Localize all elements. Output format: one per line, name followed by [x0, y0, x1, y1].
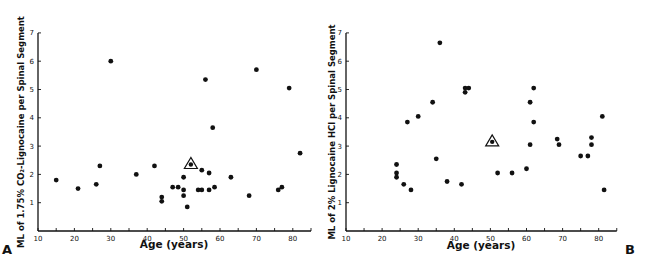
x-tick-label: 30	[414, 235, 423, 243]
data-point	[254, 67, 259, 72]
data-point	[416, 114, 421, 119]
mean-point	[189, 162, 193, 166]
data-point	[287, 86, 292, 91]
y-tick-label: 7	[30, 29, 34, 37]
data-point	[247, 193, 252, 198]
x-tick-label: 20	[70, 235, 79, 243]
data-point	[555, 137, 560, 142]
x-tick-label: 60	[216, 235, 225, 243]
data-point	[97, 164, 102, 169]
x-tick-label: 30	[106, 235, 115, 243]
y-tick-label: 2	[338, 171, 342, 179]
x-tick-label: 70	[252, 235, 261, 243]
y-axis-label-b: ML of 2% Lignocaine HCl per Spinal Segme…	[327, 24, 337, 239]
y-tick-label: 6	[338, 58, 343, 66]
data-point	[437, 40, 442, 45]
axes-a: 10203040506070801234567	[30, 29, 311, 243]
data-point	[445, 179, 450, 184]
data-point	[589, 142, 594, 147]
y-tick-label: 5	[338, 86, 342, 94]
x-tick-label: 20	[378, 235, 387, 243]
data-point	[108, 59, 113, 64]
x-tick-label: 80	[594, 235, 603, 243]
scatter-chart-b: 10203040506070801234567 Age (years) ML o…	[325, 0, 650, 269]
y-tick-label: 4	[30, 114, 35, 122]
data-point	[152, 164, 157, 169]
data-point	[207, 171, 212, 176]
data-point	[585, 154, 590, 159]
panel-b: 10203040506070801234567 Age (years) ML o…	[325, 0, 650, 269]
data-point	[199, 168, 204, 173]
x-tick-label: 70	[558, 235, 567, 243]
data-point	[185, 205, 190, 210]
data-point	[409, 188, 414, 193]
x-axis-label-a: Age (years)	[140, 238, 209, 250]
data-point	[229, 175, 234, 180]
data-point	[203, 77, 208, 82]
mean-point	[490, 140, 494, 144]
data-point	[181, 193, 186, 198]
data-point	[94, 182, 99, 187]
data-point	[524, 166, 529, 171]
data-point	[134, 172, 139, 177]
data-point	[210, 125, 215, 130]
y-tick-label: 1	[338, 199, 342, 207]
data-point	[495, 171, 500, 176]
data-point	[405, 120, 410, 125]
x-tick-label: 10	[342, 235, 351, 243]
scatter-chart-a: 10203040506070801234567 Age (years) ML o…	[0, 0, 330, 269]
y-tick-label: 7	[338, 29, 342, 37]
x-tick-label: 60	[522, 235, 531, 243]
data-point	[401, 182, 406, 187]
data-point	[459, 182, 464, 187]
data-point	[600, 114, 605, 119]
data-points-a	[54, 59, 303, 210]
data-point	[466, 86, 471, 91]
data-point	[531, 120, 536, 125]
data-point	[181, 188, 186, 193]
x-axis-label-b: Age (years)	[447, 239, 516, 251]
data-point	[181, 175, 186, 180]
data-point	[430, 100, 435, 105]
data-point	[557, 142, 562, 147]
x-tick-label: 10	[34, 235, 43, 243]
data-point	[394, 175, 399, 180]
y-tick-label: 4	[338, 114, 343, 122]
y-tick-label: 3	[338, 143, 342, 151]
axes-b: 10203040506070801234567	[338, 29, 617, 243]
y-tick-label: 6	[30, 58, 35, 66]
data-point	[602, 188, 607, 193]
panel-letter-b: B	[625, 242, 635, 257]
data-point	[510, 171, 515, 176]
data-point	[531, 86, 536, 91]
y-axis-label-a: ML of 1.75% CO₂-Lignocaine per Spinal Se…	[16, 16, 26, 248]
y-tick-label: 3	[30, 143, 34, 151]
y-tick-label: 5	[30, 86, 34, 94]
data-point	[76, 186, 81, 191]
data-point	[394, 162, 399, 167]
y-tick-label: 2	[30, 171, 34, 179]
data-point	[159, 195, 164, 200]
data-point	[578, 154, 583, 159]
x-tick-label: 80	[288, 235, 297, 243]
data-point	[176, 185, 181, 190]
panel-letter-a: A	[2, 242, 12, 257]
data-point	[170, 185, 175, 190]
data-point	[199, 188, 204, 193]
data-point	[434, 156, 439, 161]
data-point	[207, 188, 212, 193]
y-tick-label: 1	[30, 199, 34, 207]
data-point	[463, 90, 468, 95]
data-point	[528, 142, 533, 147]
data-point	[298, 151, 303, 156]
panel-a: 10203040506070801234567 Age (years) ML o…	[0, 0, 330, 269]
data-point	[212, 185, 217, 190]
data-point	[394, 171, 399, 176]
data-point	[159, 199, 164, 204]
data-point	[279, 185, 284, 190]
data-point	[54, 178, 59, 183]
data-points-b	[394, 40, 606, 192]
data-point	[589, 135, 594, 140]
data-point	[528, 100, 533, 105]
